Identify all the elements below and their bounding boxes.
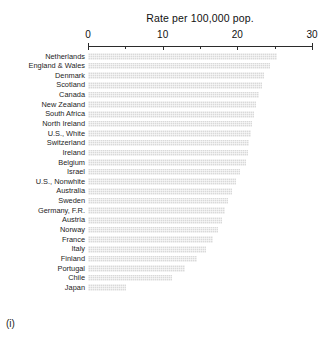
bar-row: Norway — [0, 226, 328, 236]
category-label: Sweden — [58, 196, 85, 206]
bar — [88, 82, 262, 89]
bar — [88, 159, 246, 166]
bar-rows: NetherlandsEngland & WalesDenmarkScotlan… — [0, 52, 328, 293]
bar-row: Portugal — [0, 264, 328, 274]
bar — [88, 178, 236, 185]
category-label: Scotland — [56, 80, 85, 90]
category-label: Belgium — [58, 158, 85, 168]
bar — [88, 207, 225, 214]
x-tick-label-30: 30 — [306, 29, 317, 40]
category-label: Austria — [62, 215, 85, 225]
category-label: Germany, F.R. — [38, 206, 85, 216]
x-tick-5 — [125, 46, 126, 49]
category-label: Ireland — [62, 148, 85, 158]
x-axis-end-right — [312, 43, 313, 47]
category-label: New Zealand — [41, 100, 85, 110]
category-label: Chile — [68, 273, 85, 283]
bar-row: Switzerland — [0, 139, 328, 149]
bar-row: Italy — [0, 245, 328, 255]
bar — [88, 236, 213, 243]
bar-row: Scotland — [0, 81, 328, 91]
x-tick-15 — [200, 46, 201, 49]
category-label: Japan — [65, 283, 85, 293]
x-tick-20 — [237, 46, 238, 50]
bar-row: Austria — [0, 216, 328, 226]
bar-row: Denmark — [0, 71, 328, 81]
category-label: South Africa — [45, 109, 85, 119]
bar — [88, 198, 228, 205]
bar — [88, 217, 222, 224]
category-label: North Ireland — [42, 119, 85, 129]
x-tick-label-10: 10 — [157, 29, 168, 40]
bar — [88, 101, 256, 108]
x-axis-end-left — [88, 43, 89, 47]
category-label: Denmark — [55, 71, 85, 81]
bar — [88, 265, 185, 272]
category-label: Switzerland — [47, 138, 85, 148]
category-label: U.S., Nonwhite — [36, 177, 85, 187]
bar-row: Australia — [0, 187, 328, 197]
bar — [88, 111, 254, 118]
bar — [88, 140, 249, 147]
bar — [88, 63, 270, 70]
bar — [88, 246, 206, 253]
bar-row: Belgium — [0, 158, 328, 168]
category-label: France — [62, 235, 85, 245]
category-label: U.S., White — [48, 129, 85, 139]
category-label: Portugal — [57, 264, 85, 274]
bar — [88, 227, 218, 234]
bar — [88, 92, 259, 99]
bar — [88, 150, 248, 157]
category-label: Netherlands — [45, 52, 85, 62]
bar — [88, 169, 240, 176]
bar — [88, 256, 197, 263]
category-label: Australia — [56, 186, 85, 196]
bar — [88, 275, 172, 282]
x-tick-25 — [275, 46, 276, 49]
bar — [88, 188, 232, 195]
category-label: Norway — [60, 225, 85, 235]
bar-row: Chile — [0, 274, 328, 284]
bar-row: France — [0, 235, 328, 245]
chart-figure: Rate per 100,000 pop. 0102030 Netherland… — [0, 0, 328, 343]
x-tick-label-0: 0 — [85, 29, 91, 40]
x-tick-label-20: 20 — [232, 29, 243, 40]
bar-row: Japan — [0, 283, 328, 293]
category-label: Israel — [67, 167, 85, 177]
bar-row: Finland — [0, 254, 328, 264]
bar — [88, 72, 264, 79]
bar-row: England & Wales — [0, 62, 328, 72]
bar — [88, 284, 126, 291]
category-label: England & Wales — [29, 61, 85, 71]
x-tick-10 — [163, 46, 164, 50]
bar — [88, 130, 251, 137]
category-label: Canada — [59, 90, 85, 100]
bar — [88, 121, 252, 128]
bar-row: Ireland — [0, 148, 328, 158]
chart-title: Rate per 100,000 pop. — [88, 12, 312, 24]
figure-caption: (i) — [6, 318, 15, 329]
bar-row: U.S., Nonwhite — [0, 177, 328, 187]
bar — [88, 53, 277, 60]
category-label: Italy — [71, 244, 85, 254]
bar-row: Germany, F.R. — [0, 206, 328, 216]
category-label: Finland — [61, 254, 85, 264]
